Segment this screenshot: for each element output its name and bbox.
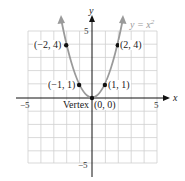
equation-label: y = x2	[130, 19, 154, 30]
x-tick-min: −5	[20, 101, 30, 110]
x-axis-arrow-icon	[163, 95, 170, 101]
y-axis-label: y	[89, 6, 93, 16]
x-tick-max: 5	[154, 101, 159, 110]
equation-text: y = x	[130, 19, 151, 30]
vertex-label: Vertex	[62, 100, 90, 110]
y-tick-max: 5	[84, 27, 89, 36]
point-label-1-1: (1, 1)	[107, 80, 131, 90]
equation-exponent: 2	[151, 18, 155, 26]
curve-right-arrow-icon	[119, 15, 127, 24]
point-label-0-0: (0, 0)	[93, 100, 117, 110]
point-label-2-4: (2, 4)	[119, 40, 143, 50]
point-label-neg1-1: (−1, 1)	[47, 80, 76, 90]
y-tick-min: −5	[78, 161, 88, 170]
parabola-graph	[0, 0, 185, 181]
point-label-neg2-4: (−2, 4)	[33, 40, 62, 50]
curve-left-arrow-icon	[58, 15, 66, 24]
y-axis-arrow-icon	[89, 15, 95, 22]
x-axis-label: x	[173, 93, 177, 103]
